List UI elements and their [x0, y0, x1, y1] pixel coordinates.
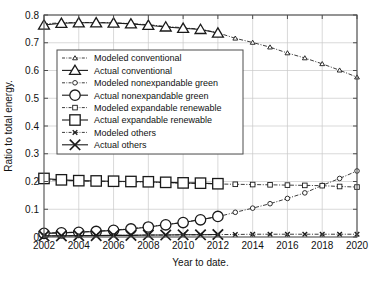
- marker-square: [56, 175, 66, 185]
- x-tick-label: 2002: [33, 240, 56, 251]
- marker-triangle: [91, 18, 102, 27]
- legend-label: Modeled expandable renewable: [94, 103, 222, 113]
- marker-square: [268, 183, 273, 188]
- legend-label: Actual nonexpandable green: [94, 91, 209, 101]
- y-tick-label: 0.7: [25, 37, 39, 48]
- y-axis-label: Ratio to total energy.: [3, 80, 14, 172]
- marker-square: [320, 183, 325, 188]
- marker-triangle: [268, 45, 273, 49]
- marker-square: [195, 178, 205, 188]
- x-tick-label: 2006: [102, 240, 125, 251]
- chart-canvas: 00.10.20.30.40.50.60.70.8200220042006200…: [0, 0, 373, 286]
- y-tick-label: 0.4: [25, 121, 39, 132]
- y-tick-label: 0.1: [25, 204, 39, 215]
- y-tick-label: 0.8: [25, 10, 39, 21]
- marker-square: [70, 115, 80, 125]
- marker-square: [250, 182, 255, 187]
- x-tick-label: 2004: [68, 240, 91, 251]
- marker-circle: [303, 191, 308, 196]
- legend-label: Actual expandable renewable: [94, 115, 212, 125]
- series-actual-conventional: [39, 18, 224, 38]
- marker-circle: [213, 211, 223, 221]
- x-tick-label: 2014: [242, 240, 265, 251]
- marker-square: [74, 175, 84, 185]
- marker-square: [303, 183, 308, 188]
- series-actual-expandable-renewable: [39, 173, 223, 189]
- legend-label: Modeled conventional: [94, 53, 182, 63]
- legend-label: Actual others: [94, 140, 147, 150]
- marker-circle: [70, 90, 80, 100]
- marker-square: [161, 177, 171, 187]
- x-tick-label: 2008: [137, 240, 160, 251]
- legend-label: Modeled nonexpandable green: [94, 78, 218, 88]
- marker-circle: [268, 201, 273, 206]
- marker-triangle: [250, 40, 255, 44]
- marker-triangle: [233, 36, 238, 40]
- marker-triangle: [320, 62, 325, 66]
- marker-circle: [250, 206, 255, 211]
- marker-square: [108, 176, 118, 186]
- x-tick-label: 2010: [172, 240, 195, 251]
- x-tick-label: 2020: [346, 240, 369, 251]
- marker-circle: [285, 196, 290, 201]
- y-tick-label: 0.6: [25, 65, 39, 76]
- marker-circle: [73, 81, 78, 86]
- chart-figure: 00.10.20.30.40.50.60.70.8200220042006200…: [0, 0, 373, 286]
- marker-square: [285, 183, 290, 188]
- marker-circle: [178, 217, 188, 227]
- x-tick-label: 2018: [311, 240, 334, 251]
- marker-triangle: [285, 51, 290, 55]
- marker-circle: [161, 220, 171, 230]
- marker-square: [233, 182, 238, 187]
- y-tick-label: 0.2: [25, 176, 39, 187]
- legend-label: Actual conventional: [94, 66, 172, 76]
- legend-label: Modeled others: [94, 128, 157, 138]
- marker-square: [73, 105, 78, 110]
- x-tick-label: 2012: [207, 240, 230, 251]
- y-tick-label: 0.5: [25, 93, 39, 104]
- marker-triangle: [337, 68, 342, 72]
- marker-square: [337, 184, 342, 189]
- marker-square: [91, 176, 101, 186]
- marker-square: [126, 176, 136, 186]
- x-axis-label: Year to date.: [172, 257, 228, 268]
- marker-circle: [195, 215, 205, 225]
- y-tick-label: 0.3: [25, 148, 39, 159]
- marker-square: [213, 179, 223, 189]
- marker-square: [143, 177, 153, 187]
- marker-square: [178, 178, 188, 188]
- x-tick-label: 2016: [276, 240, 299, 251]
- marker-circle: [233, 210, 238, 215]
- marker-triangle: [302, 56, 307, 60]
- marker-circle: [337, 176, 342, 181]
